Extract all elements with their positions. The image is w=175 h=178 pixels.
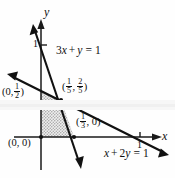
eq2-plus: + xyxy=(111,147,118,159)
pt-int-x-numerator: 1 xyxy=(66,78,72,86)
pt-xint-denominator: 3 xyxy=(80,121,86,130)
vertex-dot-intersection xyxy=(59,98,63,102)
x-axis-arrowhead xyxy=(152,133,162,140)
y-axis-tick-label-1: 1 xyxy=(33,39,38,49)
line-3x-plus-y-arrowhead-bottom xyxy=(75,156,84,169)
pt-xint-close: ) xyxy=(97,116,101,127)
point-label-origin: (0, 0) xyxy=(8,138,31,149)
pt-int-comma: , xyxy=(73,81,76,92)
pt-int-y-numerator: 2 xyxy=(77,78,83,86)
figure-canvas: y x 1 1 3x+y=1 x+2y=1 (0, 0) (0,12) (15,… xyxy=(0,0,175,178)
eq2-rhs: 1 xyxy=(143,147,149,159)
pt-int-open: ( xyxy=(62,81,66,92)
pt-xint-rest: , 0 xyxy=(87,116,98,127)
pt-int-x-denominator: 5 xyxy=(66,86,72,95)
eq1-plus: + xyxy=(69,44,76,56)
eq2-y: y xyxy=(125,147,130,159)
vertex-dot-x-intercept xyxy=(72,135,76,139)
point-label-x-intercept: (13, 0) xyxy=(76,113,101,130)
pt-yint-open: (0, xyxy=(2,86,13,97)
pt-int-close: ) xyxy=(84,81,88,92)
x-axis-label: x xyxy=(162,130,167,142)
pt-int-y-denominator: 5 xyxy=(77,86,83,95)
eq1-y: y xyxy=(77,44,82,56)
pt-xint-fraction: 13 xyxy=(80,113,86,130)
eq1-rhs: 1 xyxy=(95,44,101,56)
point-label-intersection: (15,25) xyxy=(62,78,87,95)
point-label-y-intercept: (0,12) xyxy=(2,83,24,100)
pt-yint-close: ) xyxy=(20,86,24,97)
eq2-equals: = xyxy=(133,147,140,159)
pt-int-fraction-x: 15 xyxy=(66,78,72,95)
y-axis-arrowhead xyxy=(37,19,44,29)
y-axis-label: y xyxy=(44,6,49,18)
equation-label-x-plus-2y: x+2y=1 xyxy=(104,148,149,160)
eq2-x: x xyxy=(104,147,109,159)
pt-xint-numerator: 1 xyxy=(80,113,86,121)
equation-label-3x-plus-y: 3x+y=1 xyxy=(56,45,101,57)
pt-xint-open: ( xyxy=(76,116,80,127)
eq1-x: x xyxy=(62,44,67,56)
eq1-equals: = xyxy=(85,44,92,56)
pt-int-fraction-y: 25 xyxy=(77,78,83,95)
vertex-dot-origin xyxy=(39,135,43,139)
